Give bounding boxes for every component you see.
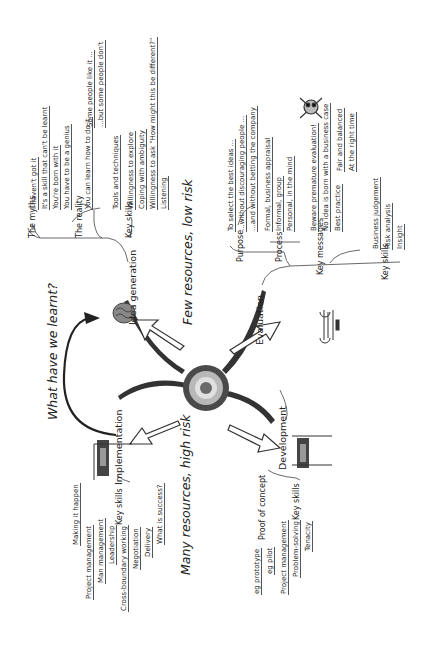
best-practice-item: Fair and balanced bbox=[336, 108, 345, 172]
evaluation-skill-item: Business judgement bbox=[372, 177, 381, 250]
myth-item: I haven't got it bbox=[30, 157, 39, 210]
process-item: Personal, in the mind bbox=[286, 156, 295, 232]
best-practice-item: At the right time bbox=[348, 112, 357, 172]
purpose-item: ...and without betting the company bbox=[249, 106, 258, 232]
implementation-skill-item: Project management bbox=[85, 525, 94, 600]
idea-skill-item: Willingness to ask "How might this be di… bbox=[149, 37, 158, 210]
development-skill-item: Project management bbox=[280, 520, 289, 595]
mindmap-connectors bbox=[0, 0, 425, 649]
poc-item: eg prototype bbox=[253, 548, 262, 595]
idea-skill-item: Listening bbox=[160, 176, 169, 210]
message-item: Beware premature evaluation! bbox=[310, 123, 319, 232]
implementation-skill-item: Cross-boundary working bbox=[120, 525, 129, 612]
development-node: Development bbox=[278, 406, 288, 470]
proof-of-concept-node: Proof of concept bbox=[258, 475, 268, 540]
what-is-success-item: What is success? bbox=[156, 483, 165, 545]
target-icon bbox=[183, 365, 229, 411]
making-it-happen-item: Making it happen bbox=[72, 483, 81, 546]
development-skill-item: Problem-solving bbox=[292, 520, 301, 578]
reality-item: You can learn how to do it bbox=[84, 117, 93, 210]
idea-skill-item: Coping with ambiguity bbox=[138, 129, 147, 210]
evaluation-skill-item: Risk analysis bbox=[384, 203, 393, 250]
idea-generation-node: Idea generation bbox=[128, 250, 138, 325]
evaluation-node: Evaluation bbox=[255, 295, 265, 345]
myth-item: It's a skill that can't be learnt bbox=[41, 106, 50, 210]
scales-icon bbox=[320, 310, 339, 343]
idea-skill-item: Willingness to explore bbox=[127, 131, 136, 210]
poc-item: eg pilot bbox=[266, 547, 275, 575]
myth-item: You have to be a genius bbox=[63, 124, 72, 210]
implementation-skill-item: Man management bbox=[97, 518, 106, 584]
development-skill-item: Tenacity bbox=[304, 521, 313, 552]
message-item: Best practice bbox=[334, 184, 343, 232]
skull-icon bbox=[300, 98, 322, 118]
myth-item: You're born with it bbox=[52, 145, 61, 210]
implementation-node: Implementation bbox=[114, 410, 124, 485]
few-resources-banner: Few resources, low risk bbox=[180, 179, 195, 325]
implementation-skill-item: Delivery bbox=[144, 527, 153, 558]
purpose-item: ...without discouraging people ... bbox=[238, 115, 247, 232]
process-node: Process bbox=[275, 232, 285, 262]
purpose-node: Purpose bbox=[236, 230, 246, 262]
reality-sub-item: Some people like it ... bbox=[86, 50, 95, 128]
what-have-we-learnt-label: What have we learnt? bbox=[45, 283, 60, 420]
purpose-item: To select the best ideas ... bbox=[227, 139, 236, 232]
evaluation-skill-item: Insight bbox=[396, 224, 405, 250]
implementation-key-skills-node: Key skills bbox=[115, 488, 125, 525]
implementation-skill-item: Leadership bbox=[108, 525, 117, 565]
start-flag-icon bbox=[292, 436, 332, 468]
reality-item: Tools and techniques bbox=[112, 135, 121, 210]
message-item: No idea is born with a business case bbox=[322, 103, 331, 232]
many-resources-banner: Many resources, high risk bbox=[178, 415, 193, 575]
implementation-skill-item: Negotiation bbox=[132, 527, 141, 570]
reality-sub-item: ...but some people don't bbox=[97, 40, 106, 128]
process-item: Informal, group bbox=[275, 176, 284, 232]
process-item: Formal, business appraisal bbox=[264, 137, 273, 232]
development-key-skills-node: Key skills bbox=[292, 483, 302, 520]
